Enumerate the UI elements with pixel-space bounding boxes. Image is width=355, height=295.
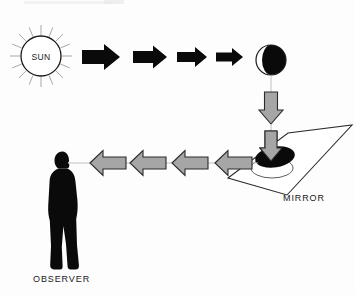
observer: OBSERVER — [33, 152, 90, 285]
reflected-arrow — [90, 151, 126, 176]
light-reflection-diagram: SUN MIRROR — [0, 0, 355, 295]
sunlight-arrow — [82, 44, 120, 70]
scan-artifact-secondary — [104, 0, 124, 4]
sunlight-beam — [82, 44, 243, 70]
diagram-canvas: SUN MIRROR — [0, 0, 355, 295]
observer-label: OBSERVER — [33, 274, 90, 284]
sun-label: SUN — [31, 52, 50, 62]
moon — [256, 45, 286, 75]
moon-dark-half — [271, 45, 286, 75]
sunlight-arrow — [177, 47, 207, 67]
sun: SUN — [10, 25, 72, 87]
observer-silhouette — [48, 152, 79, 270]
moonlight-arrow — [259, 92, 283, 124]
mirror-label: MIRROR — [283, 193, 325, 203]
sunlight-arrow — [216, 48, 243, 66]
scan-artifact — [24, 1, 114, 4]
sunlight-arrow — [133, 46, 167, 69]
reflected-beam — [68, 151, 258, 176]
reflected-arrow — [130, 151, 166, 176]
reflected-arrow — [172, 151, 208, 176]
